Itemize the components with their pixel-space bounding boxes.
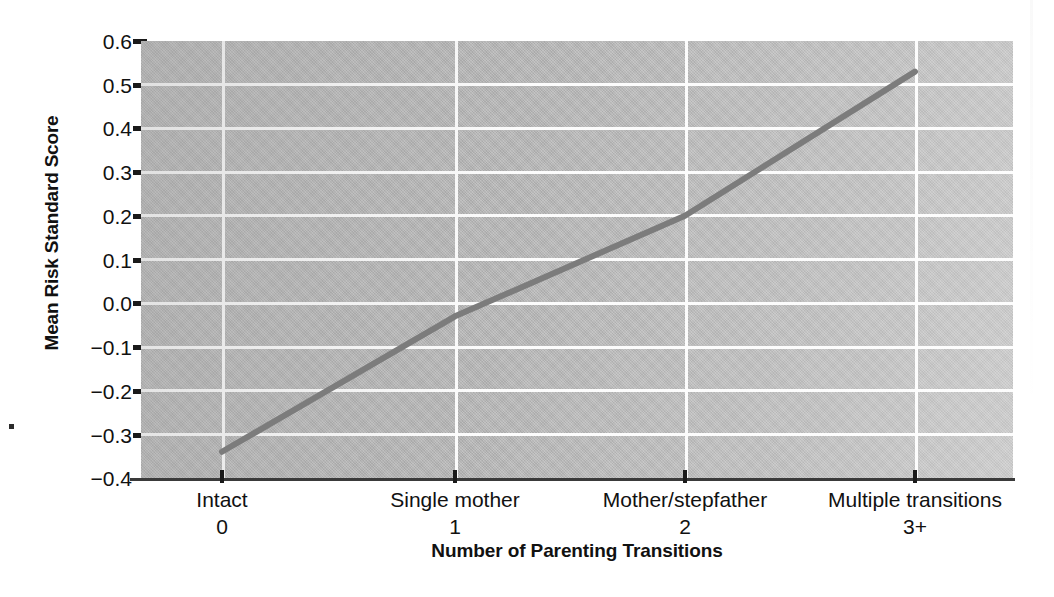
y-tick-label: 0.5 [60, 75, 132, 96]
x-tick-category-label: Single mother [325, 487, 585, 513]
y-tick-label: 0.0 [60, 293, 132, 314]
scan-artifact-speck [9, 424, 14, 429]
x-tick-category-label: Intact [92, 487, 352, 513]
y-tick-label: 0.6 [60, 31, 132, 52]
x-tick-category-label: Multiple transitions [785, 487, 1045, 513]
y-tick-label: 0.4 [60, 118, 132, 139]
plot-area [141, 41, 1013, 478]
x-tick-mark [453, 470, 457, 483]
x-tick-mark [220, 470, 224, 483]
x-tick-group-mother-stepfather: Mother/stepfather 2 [555, 487, 815, 540]
y-tick-label: −0.1 [60, 337, 132, 358]
y-tick-label: 0.3 [60, 162, 132, 183]
x-tick-value-label: 1 [325, 513, 585, 540]
y-tick-label: −0.4 [60, 468, 132, 489]
x-tick-category-label: Mother/stepfather [555, 487, 815, 513]
chart-figure: Mean Risk Standard Score 0.6 0.5 0.4 0.3… [0, 0, 1054, 597]
y-tick-label: −0.2 [60, 381, 132, 402]
x-tick-value-label: 3+ [785, 513, 1045, 540]
x-tick-value-label: 0 [92, 513, 352, 540]
x-tick-group-single-mother: Single mother 1 [325, 487, 585, 540]
x-axis-title: Number of Parenting Transitions [141, 540, 1013, 562]
x-tick-group-intact: Intact 0 [92, 487, 352, 540]
x-axis-line [130, 478, 1015, 481]
x-tick-group-multiple-transitions: Multiple transitions 3+ [785, 487, 1045, 540]
scan-artifact-edge-band [1030, 0, 1033, 430]
data-series-line [141, 41, 1013, 478]
x-tick-mark [683, 470, 687, 483]
x-tick-mark [913, 470, 917, 483]
y-tick-label: −0.3 [60, 425, 132, 446]
y-tick-label: 0.2 [60, 206, 132, 227]
y-tick-label: 0.1 [60, 250, 132, 271]
x-tick-value-label: 2 [555, 513, 815, 540]
